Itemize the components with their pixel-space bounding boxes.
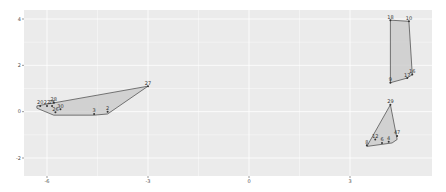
point-label: 10 xyxy=(406,15,412,21)
point-label: 3 xyxy=(93,107,96,113)
plot-panel xyxy=(24,10,432,176)
point-label: 18 xyxy=(387,14,393,20)
y-tick-label: 0 xyxy=(18,108,21,114)
y-axis: -2024 xyxy=(16,16,24,161)
point-label: 29 xyxy=(387,98,393,104)
x-tick-label: 3 xyxy=(348,178,351,184)
point-label: 2 xyxy=(106,105,109,111)
y-tick-label: 4 xyxy=(18,16,21,22)
x-tick-label: -6 xyxy=(45,178,50,184)
y-tick-label: 2 xyxy=(18,62,21,68)
x-tick-label: 0 xyxy=(247,178,250,184)
point-label: 28 xyxy=(51,96,57,102)
x-tick-label: -3 xyxy=(146,178,151,184)
point-label: 17 xyxy=(404,72,410,78)
chart: 2022252830263227181016179298126447 -6-30… xyxy=(0,0,446,192)
point-label: 27 xyxy=(145,80,151,86)
point-label: 9 xyxy=(389,76,392,82)
point-label: 6 xyxy=(380,136,383,142)
y-tick-label: -2 xyxy=(16,155,21,161)
point-label: 12 xyxy=(372,133,378,139)
point-label: 26 xyxy=(52,106,58,112)
point-label: 47 xyxy=(394,129,400,135)
point-label: 20 xyxy=(37,99,43,105)
x-axis: -6-303 xyxy=(45,176,352,184)
point-label: 4 xyxy=(387,135,390,141)
point-label: 8 xyxy=(365,139,368,145)
